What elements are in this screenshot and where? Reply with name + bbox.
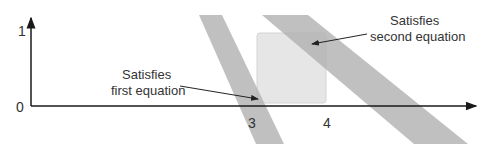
second-equation-label-line1: Satisfies	[390, 13, 440, 28]
first-equation-label-line1: Satisfies	[122, 67, 172, 82]
x-tick-4: 4	[323, 115, 331, 131]
diagram-canvas: 1 0 3 4 Satisfies first equation Satisfi…	[0, 0, 493, 150]
y-tick-0: 0	[16, 99, 24, 115]
x-tick-3: 3	[248, 115, 256, 131]
first-equation-label-line2: first equation	[111, 83, 185, 98]
second-equation-label-line2: second equation	[370, 29, 465, 44]
y-tick-1: 1	[18, 23, 26, 39]
